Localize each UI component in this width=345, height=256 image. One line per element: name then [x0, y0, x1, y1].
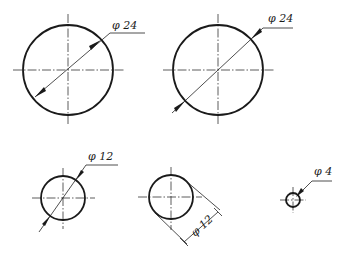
arrow-head-icon	[42, 216, 50, 226]
diameter-dimension-line	[35, 33, 110, 97]
arrow-head-icon	[35, 87, 46, 97]
arrow-head-icon	[296, 188, 304, 197]
diameter-label: φ 24	[112, 19, 137, 32]
circle-view-2: φ 24	[163, 12, 293, 124]
arrow-head-icon	[76, 170, 84, 180]
diameter-label: φ 24	[268, 12, 293, 25]
diameter-label: φ 4	[314, 165, 332, 178]
diameter-dimension-line	[172, 28, 263, 113]
arrow-head-icon	[89, 40, 101, 50]
diameter-label: φ 12	[188, 213, 215, 240]
arrow-head-icon	[174, 101, 185, 112]
arrow-head-icon	[251, 28, 262, 39]
circle-view-5: φ 4	[280, 165, 332, 213]
drawing-canvas: φ 24 φ 24 φ 12 φ 12	[0, 0, 345, 256]
circle-view-3: φ 12	[32, 150, 118, 232]
circle-view-4: φ 12	[138, 167, 222, 246]
diameter-label: φ 12	[88, 150, 113, 163]
circle-view-1: φ 24	[13, 14, 145, 124]
